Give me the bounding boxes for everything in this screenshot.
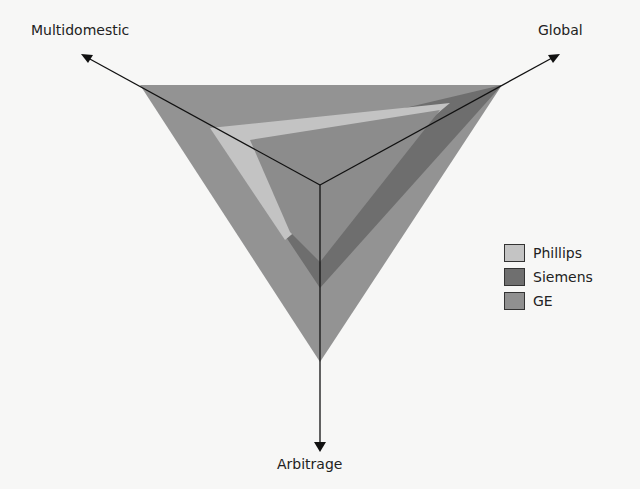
label-global: Global [538,22,583,38]
label-arbitrage: Arbitrage [277,456,342,472]
arrow-head-multidomestic [81,54,93,63]
swatch-siemens [504,268,525,286]
legend: Phillips Siemens GE [504,241,593,313]
arrow-head-arbitrage [314,442,326,452]
legend-item-ge: GE [504,289,593,313]
label-multidomestic: Multidomestic [31,22,129,38]
legend-label: Phillips [533,245,582,261]
legend-item-siemens: Siemens [504,265,593,289]
legend-label: GE [533,293,553,309]
swatch-phillips [504,244,525,262]
legend-item-phillips: Phillips [504,241,593,265]
legend-label: Siemens [533,269,593,285]
swatch-ge [504,292,525,310]
